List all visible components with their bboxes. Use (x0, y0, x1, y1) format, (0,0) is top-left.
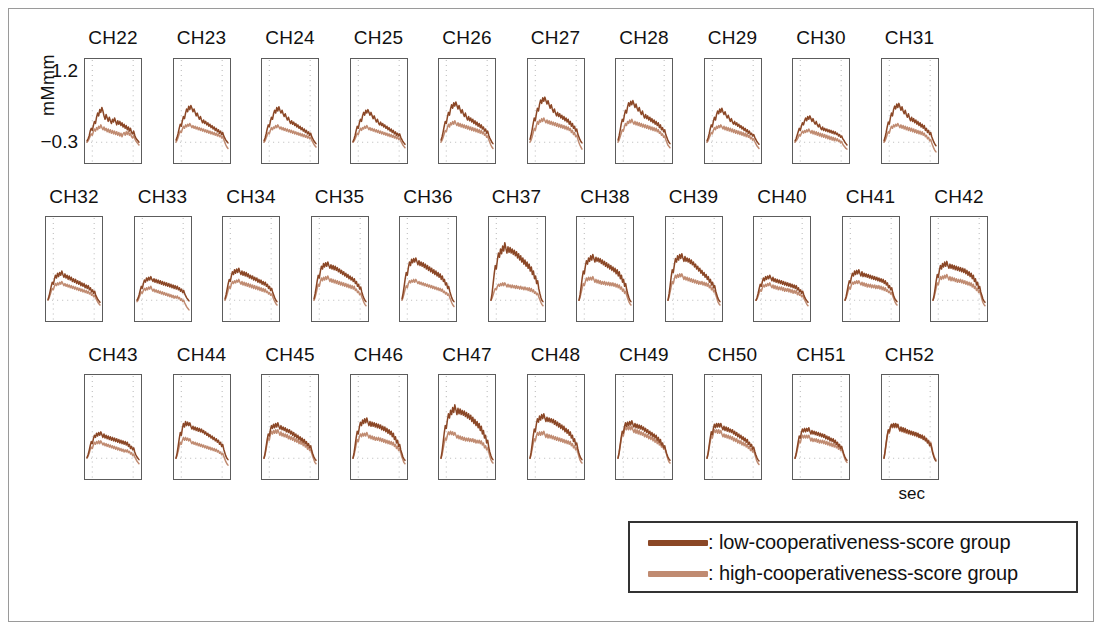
trace-high-group (353, 126, 405, 148)
trace-low-group (618, 101, 670, 144)
channel-plot-ch42 (930, 216, 988, 322)
channel-plot-ch28 (615, 58, 673, 164)
channel-plot-ch25 (350, 58, 408, 164)
channel-label-ch45: CH45 (261, 345, 319, 364)
trace-high-group (264, 430, 316, 464)
channel-plot-ch41 (842, 216, 900, 322)
trace-high-group (353, 433, 405, 464)
legend-label-high-group: : high-cooperativeness-score group (708, 562, 1018, 585)
trace-low-group (402, 258, 454, 302)
channel-plot-ch46 (350, 374, 408, 480)
trace-low-group (176, 421, 228, 459)
trace-low-group (353, 110, 405, 145)
trace-high-group (845, 281, 897, 305)
channel-plot-ch38 (576, 216, 634, 322)
legend-swatch-high-group (648, 571, 708, 577)
figure-root: mMmm 1.2 −0.3 sec CH22CH23CH24CH25CH26CH… (0, 0, 1106, 634)
channel-plot-ch29 (704, 58, 762, 164)
channel-label-ch27: CH27 (527, 28, 585, 47)
trace-high-group (314, 276, 366, 306)
channel-label-ch36: CH36 (399, 187, 457, 206)
trace-high-group (884, 123, 936, 151)
channel-label-ch40: CH40 (753, 187, 811, 206)
channel-plot-ch27 (527, 58, 585, 164)
channel-plot-ch33 (134, 216, 192, 322)
trace-high-group (441, 121, 493, 149)
channel-label-ch32: CH32 (45, 187, 103, 206)
channel-plot-ch44 (173, 374, 231, 480)
channel-label-ch34: CH34 (222, 187, 280, 206)
legend-swatch-low-group (648, 540, 708, 546)
channel-label-ch23: CH23 (173, 28, 231, 47)
channel-plot-ch37 (488, 216, 546, 322)
trace-high-group (87, 125, 139, 145)
channel-label-ch47: CH47 (438, 345, 496, 364)
trace-high-group (48, 281, 100, 305)
trace-high-group (176, 437, 228, 465)
legend: : low-cooperativeness-score group : high… (628, 521, 1078, 593)
trace-high-group (668, 274, 720, 305)
trace-high-group (530, 118, 582, 149)
channel-label-ch51: CH51 (792, 345, 850, 364)
channel-plot-ch31 (881, 58, 939, 164)
channel-label-ch42: CH42 (930, 187, 988, 206)
legend-label-low-group: : low-cooperativeness-score group (708, 531, 1010, 554)
channel-plot-ch52 (881, 374, 939, 480)
channel-plot-ch22 (84, 58, 142, 164)
channel-plot-ch35 (311, 216, 369, 322)
channel-label-ch24: CH24 (261, 28, 319, 47)
channel-plot-ch26 (438, 58, 496, 164)
trace-high-group (618, 119, 670, 147)
channel-plot-ch34 (222, 216, 280, 322)
channel-label-ch28: CH28 (615, 28, 673, 47)
channel-label-ch22: CH22 (84, 28, 142, 47)
channel-plot-ch47 (438, 374, 496, 480)
channel-plot-ch45 (261, 374, 319, 480)
trace-high-group (707, 430, 759, 465)
channel-label-ch39: CH39 (665, 187, 723, 206)
legend-item-high: : high-cooperativeness-score group (630, 558, 1076, 589)
channel-label-ch52: CH52 (881, 345, 939, 364)
trace-high-group (795, 129, 847, 149)
x-axis-label: sec (899, 484, 925, 504)
trace-high-group (933, 275, 985, 306)
channel-label-ch26: CH26 (438, 28, 496, 47)
trace-high-group (707, 125, 759, 149)
channel-label-ch30: CH30 (792, 28, 850, 47)
trace-low-group (795, 428, 847, 461)
trace-low-group (884, 103, 936, 145)
trace-high-group (87, 441, 139, 464)
channel-label-ch44: CH44 (173, 345, 231, 364)
trace-high-group (264, 125, 316, 147)
trace-high-group (756, 283, 808, 306)
trace-low-group (176, 105, 228, 142)
y-axis-tick-top: 1.2 (28, 60, 78, 82)
channel-plot-ch49 (615, 374, 673, 480)
channel-plot-ch51 (792, 374, 850, 480)
channel-plot-ch40 (753, 216, 811, 322)
channel-plot-ch24 (261, 58, 319, 164)
legend-item-low: : low-cooperativeness-score group (630, 527, 1076, 558)
channel-label-ch29: CH29 (704, 28, 762, 47)
trace-low-group (264, 423, 316, 460)
channel-label-ch33: CH33 (134, 187, 192, 206)
channel-label-ch48: CH48 (527, 345, 585, 364)
channel-label-ch41: CH41 (842, 187, 900, 206)
channel-label-ch35: CH35 (311, 187, 369, 206)
channel-label-ch31: CH31 (881, 28, 939, 47)
channel-label-ch25: CH25 (350, 28, 408, 47)
channel-plot-ch36 (399, 216, 457, 322)
trace-high-group (225, 279, 277, 305)
trace-low-group (441, 102, 493, 144)
channel-plot-ch50 (704, 374, 762, 480)
channel-plot-ch43 (84, 374, 142, 480)
channel-label-ch43: CH43 (84, 345, 142, 364)
channel-label-ch49: CH49 (615, 345, 673, 364)
channel-label-ch38: CH38 (576, 187, 634, 206)
channel-label-ch46: CH46 (350, 345, 408, 364)
y-axis-tick-bottom: −0.3 (18, 131, 78, 153)
channel-plot-ch39 (665, 216, 723, 322)
trace-low-group (884, 424, 936, 461)
channel-label-ch37: CH37 (488, 187, 546, 206)
trace-high-group (530, 431, 582, 463)
